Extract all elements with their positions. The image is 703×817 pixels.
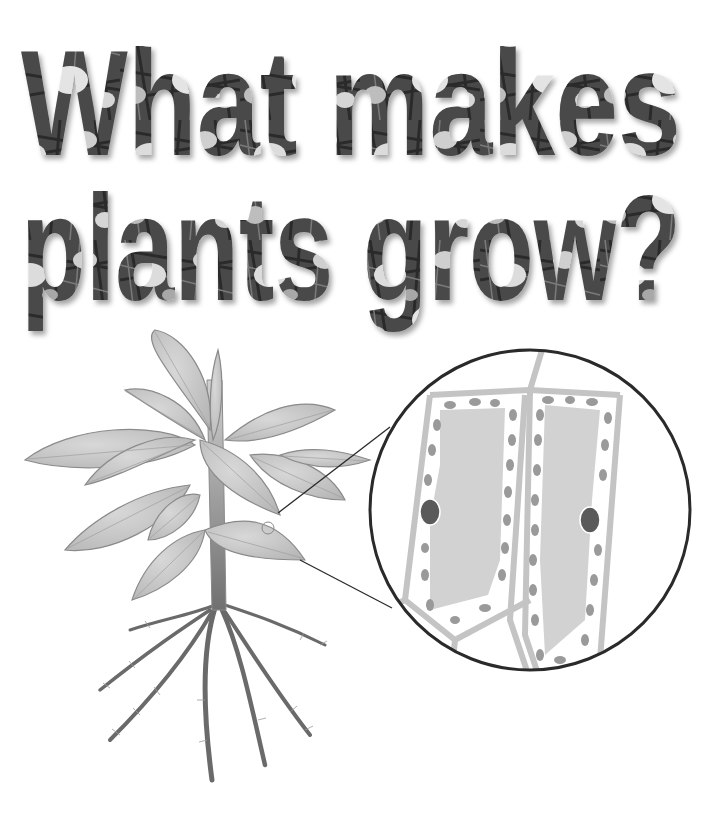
nucleus-left [420,499,440,525]
headline-line-1: What makes [21,19,681,187]
headline: What makes plants grow? [0,0,703,340]
root-hairs [103,621,327,742]
cell-magnifier [370,340,690,690]
plant-illustration [0,320,703,817]
leaf [225,404,335,441]
headline-line-2: plants grow? [21,164,681,332]
leaves [25,330,370,600]
roots [100,605,325,780]
nucleus-right [580,507,600,533]
